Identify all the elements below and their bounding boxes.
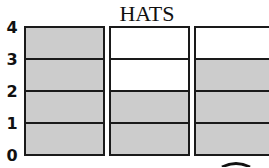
bar-cell-filled	[195, 59, 269, 91]
y-tick-label: 3	[6, 50, 17, 69]
bar-cell-empty	[195, 27, 269, 59]
bar-cell-filled	[25, 27, 104, 59]
hats-chart: HATS 01234	[0, 0, 269, 167]
y-tick-label: 2	[6, 82, 17, 101]
y-tick-label: 0	[6, 146, 17, 165]
bar-cell-filled	[110, 123, 189, 155]
bar-cell-empty	[110, 27, 189, 59]
bar-cell-filled	[110, 91, 189, 123]
bar-cell-filled	[25, 59, 104, 91]
bar-cell-filled	[195, 91, 269, 123]
bar-cell-filled	[25, 123, 104, 155]
chart-title: HATS	[119, 1, 174, 26]
bar-cell-filled	[195, 123, 269, 155]
decorative-curve	[222, 164, 250, 168]
bar-cell-empty	[110, 59, 189, 91]
y-tick-label: 4	[6, 18, 17, 37]
y-tick-label: 1	[6, 114, 17, 133]
bar-cell-filled	[25, 91, 104, 123]
